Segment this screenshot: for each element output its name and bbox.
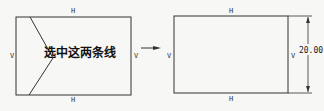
dimension-value: 20.00 <box>299 46 323 55</box>
selected-line-lower[interactable] <box>29 58 53 95</box>
top-h-constraint: H <box>71 7 75 15</box>
right-v-constraint: V <box>291 52 296 60</box>
right-rectangle[interactable] <box>174 16 288 93</box>
arrow-right-icon <box>141 46 161 50</box>
bottom-h-constraint: H <box>71 96 75 104</box>
left-v-constraint: V <box>167 52 172 60</box>
top-h-constraint: H <box>229 7 233 15</box>
right-v-constraint: V <box>134 52 139 60</box>
annotation-select-lines: 选中这两条线 <box>44 45 116 60</box>
right-sketch: H H V V 20.00 <box>167 7 324 103</box>
sketch-diagram: H H V V 选中这两条线 H H V V 20.00 <box>0 0 324 111</box>
left-sketch: H H V V 选中这两条线 <box>10 7 139 104</box>
bottom-h-constraint: H <box>229 95 233 103</box>
left-v-constraint: V <box>10 52 15 60</box>
